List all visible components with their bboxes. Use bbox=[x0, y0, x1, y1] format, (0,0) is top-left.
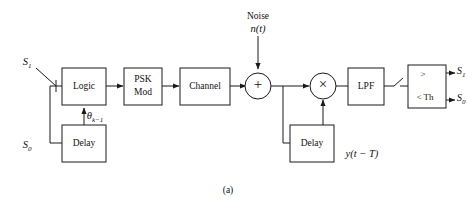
figure-caption: (a) bbox=[223, 185, 234, 196]
input-switch-blade bbox=[36, 68, 56, 86]
block-psk-mod-label-line1: PSK bbox=[134, 74, 152, 84]
wire-switch-to-delay-tx bbox=[50, 86, 62, 143]
block-delay-tx-label: Delay bbox=[73, 138, 96, 148]
block-psk-mod-label-line2: Mod bbox=[134, 87, 152, 97]
threshold-bottom-label: < Th bbox=[416, 92, 434, 102]
block-logic-label: Logic bbox=[73, 81, 95, 91]
block-lpf-label: LPF bbox=[358, 81, 374, 91]
input-label-s0: S0 bbox=[23, 139, 32, 152]
input-label-s1: S1 bbox=[23, 56, 32, 69]
feedback-theta-label: θk−1 bbox=[87, 110, 104, 123]
sampler-switch-blade bbox=[394, 78, 403, 86]
input-switch-group bbox=[36, 68, 62, 143]
block-channel-label: Channel bbox=[189, 81, 221, 91]
block-delay-rx-label: Delay bbox=[301, 138, 324, 148]
multiplier-symbol: × bbox=[319, 76, 327, 92]
output-label-s1: S1 bbox=[457, 65, 466, 78]
delayed-signal-label: y(t − T) bbox=[345, 148, 379, 160]
noise-title-label: Noise bbox=[247, 11, 269, 21]
block-diagram: S1 S0 Logic PSK Mod Channel Noise n(t) + bbox=[0, 0, 467, 209]
wire-summer-to-delay-rx bbox=[283, 86, 290, 143]
summing-junction-symbol: + bbox=[254, 76, 262, 92]
output-label-s0: S0 bbox=[457, 92, 466, 105]
figure-canvas: S1 S0 Logic PSK Mod Channel Noise n(t) + bbox=[0, 0, 467, 209]
noise-expression-label: n(t) bbox=[250, 23, 266, 35]
threshold-top-label: > bbox=[420, 69, 425, 79]
